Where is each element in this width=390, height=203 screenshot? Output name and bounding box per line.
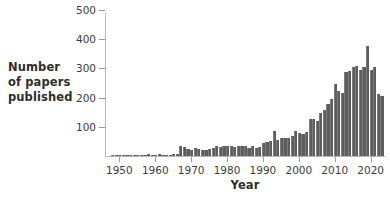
x-tick-label: 1950 <box>106 164 133 176</box>
x-tick-label: 1980 <box>214 164 241 176</box>
x-tick-label: 2010 <box>321 164 348 176</box>
x-axis-title: Year <box>105 178 385 192</box>
y-axis-title-line-3: published <box>8 90 84 105</box>
y-axis-title-line-1: Number <box>8 60 84 75</box>
x-tick-mark-2020 <box>371 157 372 162</box>
y-axis-title-line-2: of papers <box>8 75 84 90</box>
x-tick-label: 2020 <box>357 164 384 176</box>
x-tick-mark-2010 <box>335 157 336 162</box>
x-tick-mark-1950 <box>119 157 120 162</box>
x-axis-spine <box>105 156 385 157</box>
y-axis-title: Number of papers published <box>8 60 84 105</box>
y-tick-label: 500 <box>76 4 96 16</box>
y-tick-label: 200 <box>76 92 96 104</box>
y-tick-label: 100 <box>76 121 96 133</box>
bar <box>380 96 383 156</box>
x-tick-label: 1960 <box>142 164 169 176</box>
x-tick-mark-1980 <box>227 157 228 162</box>
chart-container: Number of papers published 1002003004005… <box>0 0 390 203</box>
x-tick-label: 1970 <box>178 164 205 176</box>
bars-layer <box>105 10 385 156</box>
y-tick-label: 400 <box>76 33 96 45</box>
x-tick-mark-2000 <box>299 157 300 162</box>
x-tick-label: 2000 <box>285 164 312 176</box>
x-tick-mark-1970 <box>191 157 192 162</box>
plot-area: 100200300400500 195019601970198019902000… <box>105 10 385 156</box>
y-tick-label: 300 <box>76 62 96 74</box>
x-tick-mark-1990 <box>263 157 264 162</box>
x-tick-label: 1990 <box>250 164 277 176</box>
x-tick-mark-1960 <box>155 157 156 162</box>
